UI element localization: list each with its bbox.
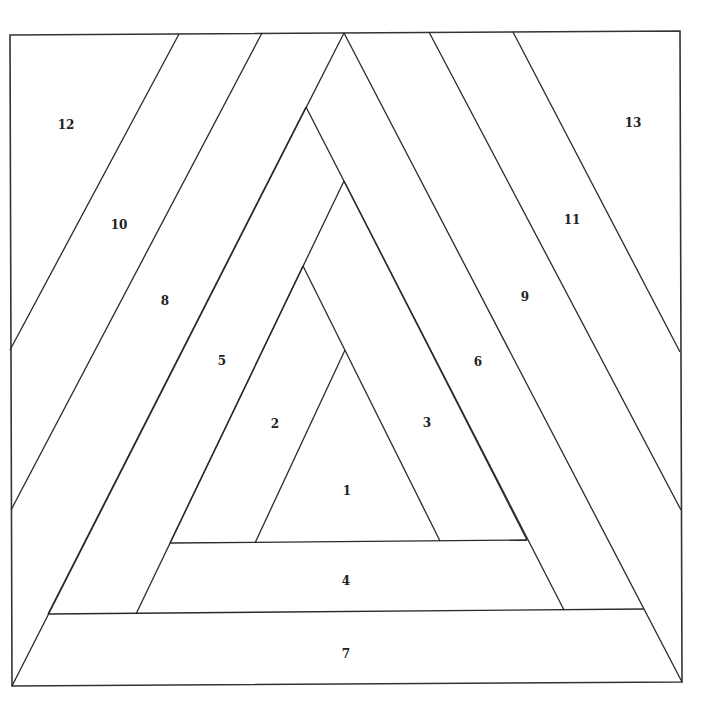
piece-label-12: 12 [58,118,75,132]
piece-label-1: 1 [343,484,351,498]
piece-label-7: 7 [342,647,350,661]
piece-label-2: 2 [271,417,279,431]
seam-3-6 [344,181,527,540]
piece-label-4: 4 [342,574,350,588]
piece-label-11: 11 [564,213,581,227]
piece-label-3: 3 [423,416,431,430]
seam-12-10 [10,34,179,350]
piece-label-5: 5 [218,354,226,368]
piece-label-6: 6 [474,355,482,369]
seam-8-5 [48,107,306,614]
piece-label-8: 8 [161,294,169,308]
seam-9-7-right [344,33,682,682]
piece-label-10: 10 [111,218,128,232]
piece-label-9: 9 [521,290,529,304]
piece-label-13: 13 [625,116,642,130]
pattern-diagram [0,0,724,722]
seam-4-top [170,540,527,543]
seam-2-1 [255,350,345,543]
seam-1-3 [303,266,440,541]
seam-10-8 [11,33,262,510]
seam-13-11 [513,32,680,352]
seam-2-left [170,266,303,543]
